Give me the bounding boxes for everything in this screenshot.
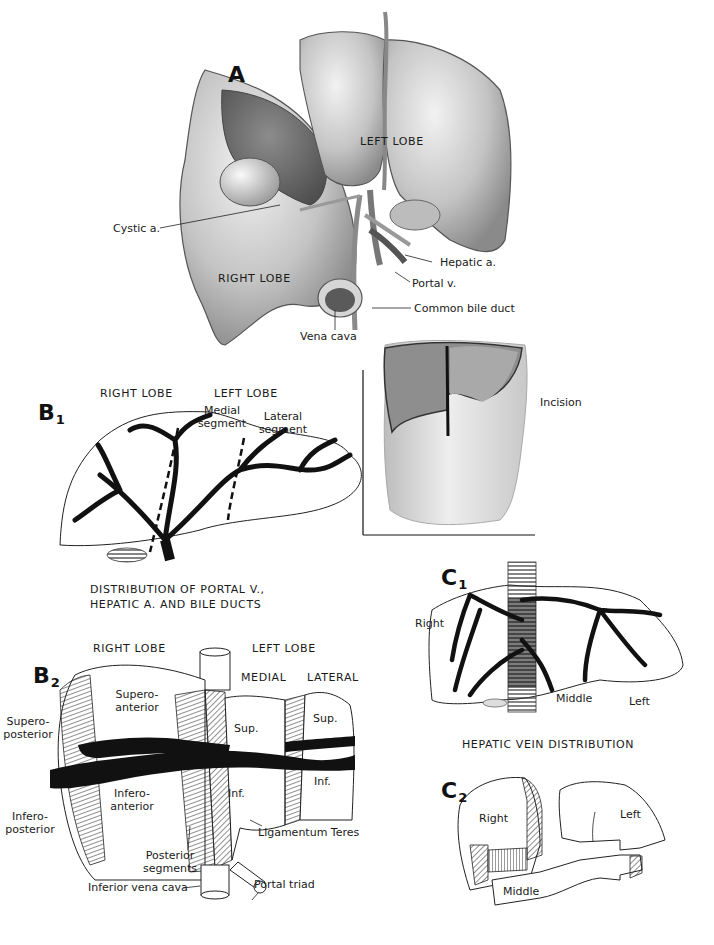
label-common-bile-duct: Common bile duct [414,302,515,315]
panel-letter-b2: B2 [33,663,60,690]
label-incision: Incision [540,396,582,409]
b2-label-medial: MEDIAL [241,671,286,684]
label-hepatic-artery: Hepatic a. [440,256,496,269]
c1-caption: HEPATIC VEIN DISTRIBUTION [462,738,634,751]
c2-label-right: Right [479,812,508,825]
b1-label-right-lobe: RIGHT LOBE [100,387,173,400]
b2-label-infero-posterior: Infero-posterior [0,810,60,836]
b2-label-left-lobe: LEFT LOBE [252,642,316,655]
label-left-lobe: LEFT LOBE [360,135,424,148]
b2-label-right-lobe: RIGHT LOBE [93,642,166,655]
b1-label-medial-segment: Medialsegment [192,404,252,430]
b2-label-inferior-vena-cava: Inferior vena cava [88,881,188,894]
panel-b1-portal-distribution-drawing [60,412,361,562]
b2-label-infero-anterior: Infero-anterior [102,787,162,813]
b2-label-supero-posterior: Supero-posterior [0,715,56,741]
label-right-lobe: RIGHT LOBE [218,272,291,285]
b2-label-portal-triad: Portal triad [254,878,315,891]
b2-label-medial-inf: Inf. [228,787,245,800]
panel-b2-segment-diagram [50,648,355,900]
c2-label-middle: Middle [503,885,539,898]
panel-c2-exploded-segments-drawing [458,777,665,905]
label-portal-vein: Portal v. [412,277,456,290]
label-vena-cava: Vena cava [300,330,357,343]
panel-letter-c2: C2 [441,778,467,805]
c1-label-left: Left [629,695,650,708]
c1-label-middle: Middle [556,692,592,705]
panel-letter-c1: C1 [441,565,467,592]
panel-letter-a: A [228,62,245,87]
b1-label-lateral-segment: Lateralsegment [253,410,313,436]
panel-a-liver-drawing [160,12,511,345]
b1-caption: DISTRIBUTION OF PORTAL V.,HEPATIC A. AND… [90,582,265,612]
b2-label-lateral-inf: Inf. [314,775,331,788]
b2-label-supero-anterior: Supero-anterior [107,688,167,714]
label-cystic-artery: Cystic a. [113,222,160,235]
b2-label-posterior-segments: Posteriorsegments [138,849,202,875]
b1-label-left-lobe: LEFT LOBE [214,387,278,400]
b2-label-lateral-sup: Sup. [313,712,337,725]
c1-label-right: Right [415,617,444,630]
panel-letter-b1: B1 [38,400,65,427]
c2-label-left: Left [620,808,641,821]
incision-torso-drawing [363,340,535,535]
b2-label-lateral: LATERAL [307,671,359,684]
b2-label-medial-sup: Sup. [234,722,258,735]
b2-label-ligamentum-teres: Ligamentum Teres [258,826,359,839]
